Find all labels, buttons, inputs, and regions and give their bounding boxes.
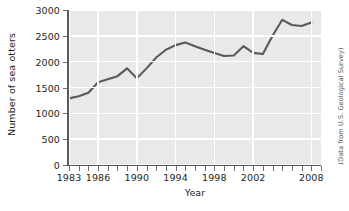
- y-axis-tick-label: 3000: [20, 5, 60, 16]
- y-axis-tick-mark: [63, 36, 67, 37]
- y-axis-tick-label: 2000: [20, 56, 60, 67]
- vertical-gridline: [69, 10, 70, 165]
- source-credit: (Data from U.S. Geological Survey): [333, 0, 349, 211]
- vertical-gridline: [252, 10, 253, 165]
- horizontal-gridline: [69, 10, 321, 11]
- horizontal-gridline: [69, 138, 321, 139]
- x-axis-tick-mark: [195, 166, 196, 171]
- x-axis-tick-label: 1990: [125, 172, 150, 183]
- x-axis-tick-mark: [282, 166, 283, 171]
- x-axis-tick-mark: [98, 166, 99, 171]
- x-axis-tick-mark: [88, 166, 89, 171]
- x-axis-tick-mark: [69, 166, 70, 171]
- x-axis-tick-mark: [253, 166, 254, 171]
- y-axis-tick-mark: [63, 62, 67, 63]
- x-axis-tick-mark: [243, 166, 244, 171]
- x-axis-tick-mark: [79, 166, 80, 171]
- y-axis-tick-label: 0: [20, 160, 60, 171]
- y-axis-tick-mark: [63, 113, 67, 114]
- y-axis-tick-label: 500: [20, 134, 60, 145]
- x-axis-tick-mark: [137, 166, 138, 171]
- plot-area: [69, 10, 321, 165]
- x-axis-tick-label: 2002: [241, 172, 266, 183]
- horizontal-gridline: [69, 61, 321, 62]
- x-axis-tick-mark: [321, 166, 322, 171]
- x-axis-tick-mark: [117, 166, 118, 171]
- x-axis-tick-labels: 1983198619901994199820022008: [0, 172, 349, 186]
- x-axis-tick-mark: [147, 166, 148, 171]
- y-axis-title-text: Number of sea otters: [6, 33, 17, 136]
- x-axis-tick-label: 1998: [202, 172, 227, 183]
- x-axis-tick-mark: [224, 166, 225, 171]
- y-axis-tick-mark: [63, 88, 67, 89]
- x-axis-tick-mark: [214, 166, 215, 171]
- y-axis-title: Number of sea otters: [0, 0, 22, 168]
- y-axis-tick-label: 1500: [20, 82, 60, 93]
- vertical-gridline: [214, 10, 215, 165]
- x-axis-tick-label: 1983: [57, 172, 82, 183]
- x-axis-tick-mark: [185, 166, 186, 171]
- horizontal-gridline: [69, 164, 321, 165]
- x-axis-tick-mark: [302, 166, 303, 171]
- y-axis-tick-labels: 050010001500200025003000: [20, 0, 60, 168]
- x-axis-tick-label: 1986: [86, 172, 111, 183]
- x-axis-tick-mark: [292, 166, 293, 171]
- x-axis-tick-mark: [263, 166, 264, 171]
- horizontal-gridline: [69, 113, 321, 114]
- x-axis-tick-mark: [311, 166, 312, 171]
- x-axis-tick-mark: [156, 166, 157, 171]
- source-credit-text: (Data from U.S. Geological Survey): [337, 47, 345, 164]
- x-axis-tick-mark: [108, 166, 109, 171]
- y-axis-tick-mark: [63, 10, 67, 11]
- x-axis-tick-mark: [205, 166, 206, 171]
- vertical-gridline: [175, 10, 176, 165]
- x-axis-title: Year: [69, 187, 321, 198]
- vertical-gridline: [136, 10, 137, 165]
- x-axis-tick-mark: [166, 166, 167, 171]
- x-axis-tick-mark: [273, 166, 274, 171]
- horizontal-gridline: [69, 35, 321, 36]
- y-axis-tick-label: 2500: [20, 30, 60, 41]
- horizontal-gridline: [69, 87, 321, 88]
- x-axis-tick-label: 1994: [163, 172, 188, 183]
- vertical-gridline: [311, 10, 312, 165]
- x-axis-tick-mark: [176, 166, 177, 171]
- x-axis-tick-mark: [127, 166, 128, 171]
- vertical-gridline: [97, 10, 98, 165]
- y-axis-tick-mark: [63, 139, 67, 140]
- sea-otter-population-chart: Number of sea otters 0500100015002000250…: [0, 0, 349, 211]
- x-axis-tick-mark: [234, 166, 235, 171]
- y-axis-tick-label: 1000: [20, 108, 60, 119]
- x-axis-tick-marks: [69, 166, 321, 171]
- y-axis-tick-mark: [63, 165, 67, 166]
- x-axis-tick-label: 2008: [299, 172, 324, 183]
